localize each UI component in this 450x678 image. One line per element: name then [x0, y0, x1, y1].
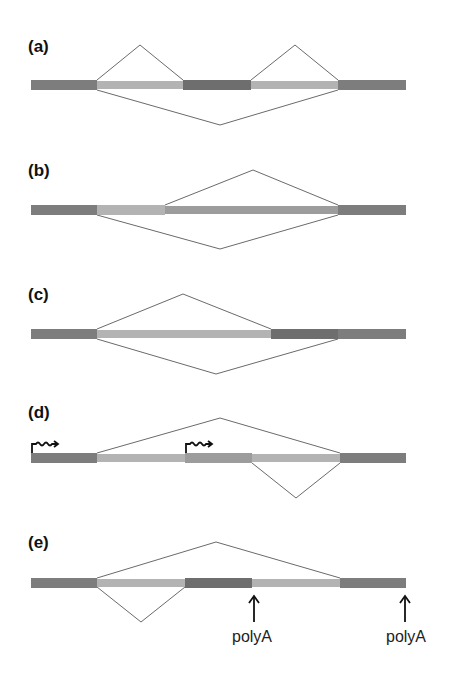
exon-first-promoter-1	[31, 453, 97, 463]
exon-terminal-1	[185, 578, 252, 588]
polyA-label-2: polyA	[386, 628, 426, 645]
panel-d: (d)	[28, 403, 406, 498]
exon-constitutive	[340, 453, 406, 463]
intron-region	[251, 81, 338, 89]
junction-upper	[97, 418, 340, 453]
panel-a: (a)	[28, 37, 406, 125]
junction-upper	[97, 542, 340, 578]
polyA-label-1: polyA	[232, 628, 272, 645]
splicing-diagram: (a) (b) (c) (d)	[0, 0, 450, 678]
panel-label-b: (b)	[28, 161, 50, 180]
exon-first-promoter-2	[185, 453, 252, 463]
exon-constitutive-2	[338, 205, 406, 215]
panel-label-a: (a)	[28, 37, 49, 56]
exon-constitutive-1	[31, 578, 97, 588]
panel-label-e: (e)	[28, 533, 49, 552]
exon-alt-3prime-extension	[271, 329, 338, 339]
intron-region	[165, 206, 338, 214]
junction-lower	[252, 463, 340, 498]
intron-region	[97, 454, 185, 462]
promoter-arrow-icon	[32, 441, 58, 453]
exon-terminal-2	[340, 578, 406, 588]
exon-constitutive-1	[31, 205, 97, 215]
exon-constitutive-2	[338, 80, 406, 90]
panel-b: (b)	[28, 161, 406, 249]
promoter-arrow-icon	[186, 441, 212, 453]
intron-region	[252, 454, 340, 462]
junction-upper	[165, 170, 338, 205]
exon-cassette	[183, 80, 251, 90]
polyA-arrow-icon	[249, 596, 259, 622]
intron-region	[252, 579, 340, 587]
junction-lower	[97, 90, 338, 125]
exon-alt-5prime-extension	[97, 205, 165, 215]
junction-lower	[97, 215, 338, 249]
exon-constitutive-1	[31, 329, 97, 339]
panel-label-c: (c)	[28, 285, 49, 304]
junction-lower	[97, 587, 185, 622]
junction-lower	[97, 339, 338, 374]
exon-constitutive-1	[31, 80, 97, 90]
junction-upper-1	[97, 45, 183, 80]
panel-e: (e) polyA polyA	[28, 533, 426, 645]
junction-upper	[97, 294, 271, 329]
exon-constitutive-2	[338, 329, 406, 339]
intron-region	[97, 81, 183, 89]
intron-region	[97, 330, 271, 338]
panel-c: (c)	[28, 285, 406, 374]
intron-region	[97, 579, 185, 587]
polyA-arrow-icon	[400, 596, 410, 622]
junction-upper-2	[251, 45, 338, 80]
panel-label-d: (d)	[28, 403, 50, 422]
